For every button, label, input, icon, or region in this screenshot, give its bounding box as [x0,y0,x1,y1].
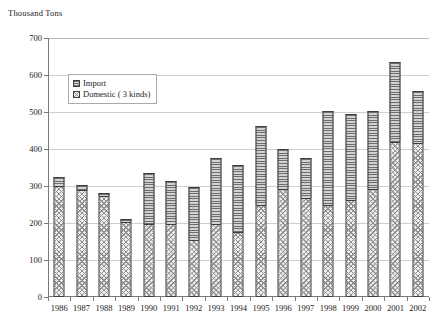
y-axis-tick-label: 200 [12,218,42,228]
stacked-bar[interactable] [233,165,244,297]
bar-segment-domestic [76,190,87,297]
x-axis-tick-mark [205,297,206,301]
x-axis-tick-label: 1986 [51,303,68,313]
stacked-bar[interactable] [390,62,401,297]
y-axis-tick-label: 100 [12,255,42,265]
stacked-bar[interactable] [166,181,177,297]
y-axis-title: Thousand Tons [8,8,63,18]
x-axis-tick-label: 1999 [342,303,359,313]
stacked-bar[interactable] [188,187,199,297]
bar-segment-domestic [211,224,222,297]
x-axis-tick-mark [250,297,251,301]
x-axis-tick-label: 2002 [409,303,426,313]
legend: ImportDomestic ( 3 kinds) [68,74,157,104]
bar-segment-import [166,181,177,224]
bar-segment-import [412,91,423,144]
legend-swatch-import-icon [73,80,80,87]
x-axis-tick-mark [138,297,139,301]
bar-segment-domestic [54,186,65,297]
bar-segment-import [255,126,266,206]
stacked-bar[interactable] [367,111,378,297]
bar-segment-import [367,111,378,189]
stacked-bar[interactable] [412,91,423,297]
x-axis-tick-mark [384,297,385,301]
bar-category [160,38,182,297]
stacked-bar[interactable] [300,158,311,297]
bar-segment-domestic [323,205,334,297]
bar-segment-domestic [345,200,356,297]
bar-segment-domestic [412,143,423,297]
stacked-bar[interactable] [323,111,334,297]
x-axis-tick-label: 1996 [275,303,292,313]
bar-segment-domestic [166,224,177,297]
x-axis-tick-label: 2001 [387,303,404,313]
bar-category [205,38,227,297]
stacked-bar[interactable] [345,114,356,297]
bar-category [339,38,361,297]
x-axis-tick-mark [227,297,228,301]
legend-item: Import [73,78,150,89]
bar-segment-import [143,173,154,224]
bar-segment-import [188,187,199,240]
bar-segment-domestic [188,240,199,297]
bar-chart: Thousand Tons 0100200300400500600700 198… [0,0,443,331]
bar-segment-domestic [99,196,110,297]
y-axis-tick-label: 0 [12,292,42,302]
x-axis-tick-mark [182,297,183,301]
bar-segment-import [54,177,65,186]
y-axis-tick-label: 500 [12,107,42,117]
bar-segment-domestic [278,189,289,297]
bar-segment-domestic [300,198,311,297]
x-axis-tick-label: 1998 [320,303,337,313]
bar-segment-domestic [121,222,132,297]
x-axis-tick-label: 1988 [96,303,113,313]
x-axis-tick-mark [317,297,318,301]
stacked-bar[interactable] [255,126,266,297]
x-axis-tick-mark [295,297,296,301]
bar-segment-import [300,158,311,198]
x-axis-tick-label: 1993 [208,303,225,313]
x-axis-tick-mark [93,297,94,301]
x-axis-tick-mark [429,297,430,301]
y-axis-tick-label: 300 [12,181,42,191]
y-axis-tick-label: 400 [12,144,42,154]
bar-segment-domestic [390,142,401,297]
x-axis-tick-mark [160,297,161,301]
bar-category [227,38,249,297]
x-axis-tick-label: 1991 [163,303,180,313]
x-axis-tick-mark [115,297,116,301]
x-axis-tick-label: 1990 [140,303,157,313]
x-axis-tick-label: 1987 [73,303,90,313]
x-axis-tick-mark [407,297,408,301]
stacked-bar[interactable] [143,173,154,297]
stacked-bar[interactable] [76,185,87,297]
legend-swatch-domestic-icon [73,91,80,98]
stacked-bar[interactable] [211,158,222,297]
bar-segment-import [278,149,289,189]
stacked-bar[interactable] [121,219,132,297]
bar-segment-domestic [367,189,378,297]
x-axis-tick-label: 2000 [364,303,381,313]
bar-segment-import [390,62,401,142]
bar-segment-import [211,158,222,224]
stacked-bar[interactable] [278,149,289,297]
x-axis-tick-label: 1989 [118,303,135,313]
x-axis-tick-label: 1994 [230,303,247,313]
x-axis-tick-label: 1995 [252,303,269,313]
bar-segment-import [233,165,244,232]
bar-segment-import [323,111,334,205]
bar-category [295,38,317,297]
bar-category [317,38,339,297]
bar-category [182,38,204,297]
x-axis-tick-mark [70,297,71,301]
bar-category [362,38,384,297]
bar-segment-import [345,114,356,200]
bar-segment-domestic [255,205,266,297]
bar-segment-domestic [143,224,154,297]
legend-item-label: Domestic ( 3 kinds) [83,89,150,100]
x-axis-tick-mark [339,297,340,301]
stacked-bar[interactable] [54,177,65,297]
legend-item-label: Import [83,78,106,89]
stacked-bar[interactable] [99,193,110,297]
x-axis-tick-mark [48,297,49,301]
